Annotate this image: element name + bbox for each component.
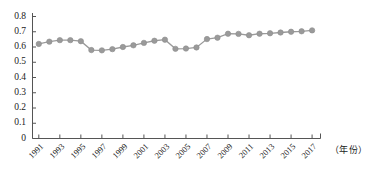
- data-point-marker: [120, 44, 125, 49]
- chart-figure: 0.80.70.60.50.40.30.20.10 19911993199519…: [0, 0, 371, 173]
- data-point-marker: [89, 47, 94, 52]
- data-point-marker: [309, 28, 314, 33]
- data-point-marker: [194, 45, 199, 50]
- data-point-marker: [204, 36, 209, 41]
- data-point-marker: [246, 33, 251, 38]
- data-point-marker: [267, 31, 272, 36]
- y-axis-tick-label: 0.4: [0, 73, 26, 83]
- data-point-marker: [78, 39, 83, 44]
- data-point-marker: [299, 29, 304, 34]
- data-point-marker: [99, 48, 104, 53]
- data-point-marker: [236, 31, 241, 36]
- y-axis-tick-label: 0: [0, 134, 26, 144]
- data-point-marker: [141, 40, 146, 45]
- data-point-marker: [278, 30, 283, 35]
- data-point-marker: [183, 46, 188, 51]
- y-axis-tick-label: 0.7: [0, 27, 26, 37]
- y-axis-tick-label: 0.1: [0, 118, 26, 128]
- data-point-marker: [173, 46, 178, 51]
- data-point-marker: [288, 29, 293, 34]
- y-axis-tick-label: 0.2: [0, 103, 26, 113]
- data-point-marker: [36, 41, 41, 46]
- data-point-marker: [47, 39, 52, 44]
- y-axis-tick-label: 0.3: [0, 88, 26, 98]
- data-point-marker: [225, 31, 230, 36]
- data-point-marker: [131, 43, 136, 48]
- data-point-marker: [162, 37, 167, 42]
- y-axis-tick-label: 0.8: [0, 12, 26, 22]
- x-axis-title: （年份）: [330, 143, 367, 156]
- y-axis-tick-label: 0.5: [0, 57, 26, 67]
- data-point-marker: [68, 37, 73, 42]
- y-axis-tick-label: 0.6: [0, 42, 26, 52]
- data-point-marker: [215, 35, 220, 40]
- data-point-marker: [152, 38, 157, 43]
- data-point-marker: [57, 37, 62, 42]
- data-point-marker: [110, 46, 115, 51]
- data-point-marker: [257, 31, 262, 36]
